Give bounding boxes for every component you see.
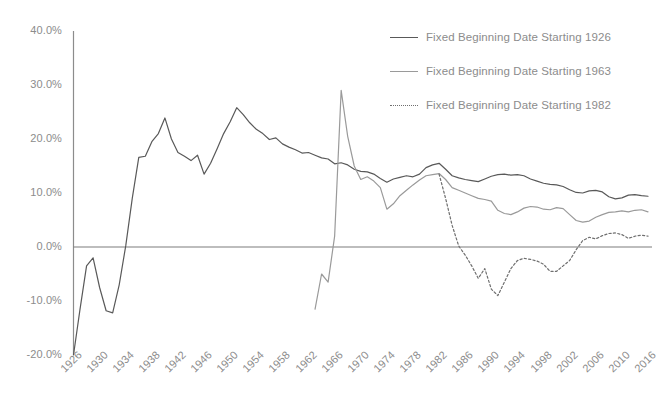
- legend-line-swatch: [390, 105, 418, 106]
- series-line-3: [439, 174, 648, 296]
- y-axis-tick-label: 0.0%: [4, 240, 62, 252]
- y-axis-tick-label: 30.0%: [4, 78, 62, 90]
- chart-series-layer: [74, 90, 649, 355]
- y-axis-tick-label: 40.0%: [4, 24, 62, 36]
- series-line-1: [74, 108, 649, 355]
- legend-line-swatch: [390, 37, 418, 38]
- legend-item[interactable]: Fixed Beginning Date Starting 1982: [390, 98, 611, 112]
- y-axis-tick-label: 10.0%: [4, 186, 62, 198]
- y-axis-tick-label: 20.0%: [4, 132, 62, 144]
- chart-axes: [74, 31, 653, 355]
- legend-item-label: Fixed Beginning Date Starting 1926: [426, 31, 611, 43]
- y-axis-tick-label: -10.0%: [4, 294, 62, 306]
- legend-item-label: Fixed Beginning Date Starting 1982: [426, 99, 611, 111]
- series-line-2: [315, 90, 648, 309]
- legend-item-label: Fixed Beginning Date Starting 1963: [426, 65, 611, 77]
- chart-plot-area: [0, 0, 660, 410]
- legend-line-swatch: [390, 71, 418, 72]
- y-axis-tick-label: -20.0%: [4, 348, 62, 360]
- line-chart: 40.0%30.0%20.0%10.0%0.0%-10.0%-20.0% 192…: [0, 0, 660, 410]
- legend-item[interactable]: Fixed Beginning Date Starting 1926: [390, 30, 611, 44]
- legend-item[interactable]: Fixed Beginning Date Starting 1963: [390, 64, 611, 78]
